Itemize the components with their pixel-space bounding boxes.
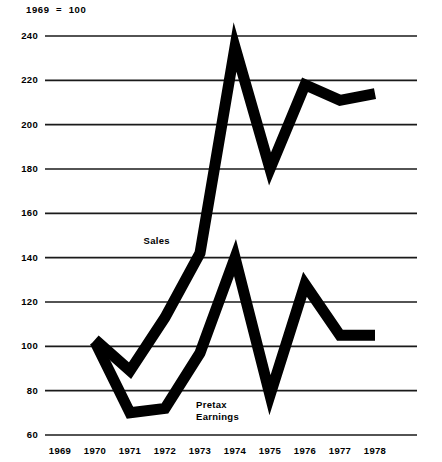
x-axis-tick-label: 1978: [355, 445, 395, 456]
x-axis-tick-label: 1970: [75, 445, 115, 456]
x-axis-tick-label: 1971: [110, 445, 150, 456]
y-axis-tick-label: 100: [6, 340, 38, 351]
x-axis-tick-label: 1972: [145, 445, 185, 456]
series-line-pretax-earnings: [95, 258, 375, 413]
x-axis-tick-label: 1969: [40, 445, 80, 456]
y-axis-tick-label: 160: [6, 207, 38, 218]
y-axis-tick-label: 180: [6, 163, 38, 174]
x-axis-tick-label: 1977: [320, 445, 360, 456]
y-axis-tick-label: 220: [6, 74, 38, 85]
y-axis-tick-label: 200: [6, 119, 38, 130]
y-axis-tick-label: 80: [6, 385, 38, 396]
chart-plot-area: [0, 0, 442, 462]
x-axis-tick-label: 1976: [285, 445, 325, 456]
x-axis-tick-label: 1975: [250, 445, 290, 456]
series-label-sales: Sales: [144, 235, 170, 247]
series-label-pretax-earnings: Pretax Earnings: [196, 399, 239, 422]
y-axis-tick-label: 120: [6, 296, 38, 307]
x-axis-tick-label: 1973: [180, 445, 220, 456]
y-axis-tick-label: 60: [6, 429, 38, 440]
chart-container: 1969 = 100 2402202001801601401201008060 …: [0, 0, 442, 462]
y-axis-tick-label: 240: [6, 30, 38, 41]
x-axis-tick-label: 1974: [215, 445, 255, 456]
y-axis-tick-label: 140: [6, 252, 38, 263]
